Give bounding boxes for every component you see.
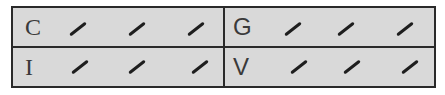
tally-mark-icon [396,22,414,37]
tally-mark-icon [71,60,89,75]
cell-i: I [13,48,225,86]
cell-c: C [13,8,225,48]
cell-g: G [225,8,434,48]
cell-label: G [233,15,252,39]
tally-mark-icon [401,60,419,75]
tally-mark-icon [290,60,308,75]
tally-mark-icon [191,60,209,75]
cell-label: V [233,55,249,79]
cell-label: I [25,55,33,79]
tally-mark-icon [343,60,361,75]
tally-mark-icon [128,22,146,37]
tally-grid: C G I V [11,6,436,88]
tally-mark-icon [337,22,355,37]
tally-mark-icon [187,22,205,37]
tally-mark-icon [128,60,146,75]
cell-v: V [225,48,434,86]
tally-mark-icon [69,22,87,37]
tally-mark-icon [284,22,302,37]
cell-label: C [25,15,41,39]
